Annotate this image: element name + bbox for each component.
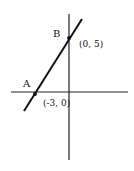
- point-a-label: A: [22, 78, 31, 89]
- point-b-coord-label: (0, 5): [79, 39, 103, 49]
- coordinate-diagram: B (0, 5) A (-3, 0): [0, 0, 134, 171]
- point-a: [33, 92, 37, 96]
- point-b: [67, 36, 71, 40]
- point-b-label: B: [53, 28, 60, 39]
- point-a-coord-label: (-3, 0): [43, 98, 70, 108]
